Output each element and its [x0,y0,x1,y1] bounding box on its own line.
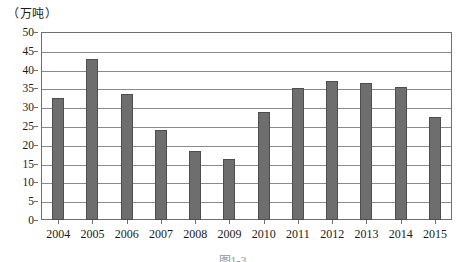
x-tick-mark [127,220,128,224]
y-tick-mark [34,126,38,127]
x-tick-label-2008: 2008 [183,227,207,241]
y-tick-mark [34,51,38,52]
x-tick-label-2012: 2012 [320,227,344,241]
y-tick-mark [34,220,38,221]
x-tick-mark [366,220,367,224]
x-tick-label-2014: 2014 [389,227,413,241]
y-tick-label: 40 [23,64,35,75]
y-tick-label: 10 [23,177,35,188]
y-tick-mark [34,107,38,108]
y-tick-label: 20 [23,139,35,150]
y-tick-label: 35 [23,83,35,94]
y-tick-label: 50 [23,27,35,38]
x-tick-label-2013: 2013 [354,227,378,241]
x-tick-label-2006: 2006 [115,227,139,241]
gridline [42,108,451,109]
gridline [42,202,451,203]
x-tick-mark [332,220,333,224]
x-tick-label-2005: 2005 [80,227,104,241]
x-tick-mark [229,220,230,224]
x-tick-mark [435,220,436,224]
x-tick-label-2009: 2009 [217,227,241,241]
x-tick-mark [92,220,93,224]
x-tick-mark [195,220,196,224]
x-tick-label-2015: 2015 [423,227,447,241]
y-tick-mark [34,182,38,183]
gridline [42,71,451,72]
gridline [42,127,451,128]
x-tick-label-2011: 2011 [286,227,310,241]
y-tick-mark [34,88,38,89]
y-axis-unit-label: （万吨） [7,7,57,21]
y-tick-mark [34,32,38,33]
x-tick-mark [58,220,59,224]
x-axis: 2004200520062007200820092010201120122013… [41,220,452,250]
gridline [42,89,451,90]
x-tick-mark [298,220,299,224]
x-tick-mark [264,220,265,224]
plot-area [41,32,452,220]
x-tick-mark [161,220,162,224]
y-tick-mark [34,70,38,71]
gridline [42,183,451,184]
y-tick-mark [34,145,38,146]
x-tick-label-2007: 2007 [149,227,173,241]
y-tick-mark [34,164,38,165]
y-tick-label: 15 [23,158,35,169]
x-tick-label-2010: 2010 [252,227,276,241]
y-tick-label: 30 [23,102,35,113]
gridline [42,146,451,147]
y-tick-mark [34,201,38,202]
gridline [42,52,451,53]
bar-chart-figure: （万吨） 05101520253035404550 20042005200620… [0,0,465,262]
y-tick-label: 25 [23,121,35,132]
x-tick-label-2004: 2004 [46,227,70,241]
y-tick-label: 45 [23,45,35,56]
figure-caption: 图1-3 [0,254,465,262]
x-tick-mark [401,220,402,224]
gridline [42,165,451,166]
y-axis: 05101520253035404550 [0,32,38,220]
